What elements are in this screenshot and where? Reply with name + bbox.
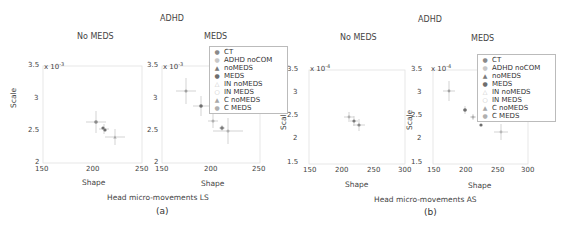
axes-a-left <box>43 66 142 163</box>
marker-icon: ▲ <box>481 72 489 80</box>
marker-icon: ● <box>213 72 221 80</box>
legend-item: ●ADHD noCOM <box>481 64 552 72</box>
marker-icon: ▲ <box>481 104 489 112</box>
marker-icon: ● <box>213 48 221 56</box>
xtick: 250 <box>252 165 265 173</box>
ytick: 2.5 <box>28 126 39 134</box>
xtick: 200 <box>204 165 217 173</box>
marker-icon: △ <box>481 88 489 96</box>
ylabel: Scale <box>9 88 18 108</box>
xtick: 250 <box>367 166 380 174</box>
ytick: 3 <box>417 88 421 96</box>
ytick: 3 <box>34 94 38 102</box>
legend-item: ●ADHD noCOM <box>213 56 284 64</box>
xtick: 300 <box>398 166 411 174</box>
marker-icon: ● <box>213 56 221 64</box>
legend-item: △IN noMEDS <box>481 88 552 96</box>
y-multiplier: x 10-4 <box>310 63 330 73</box>
legend-item: ●MEDS <box>213 72 284 80</box>
axes-b-left <box>309 70 405 164</box>
ytick: 3.5 <box>411 65 422 73</box>
points-a-left <box>94 120 117 138</box>
legend-a: ●CT ●ADHD noCOM ▲noMEDS ●MEDS △IN noMEDS… <box>209 46 288 114</box>
series-a-left <box>86 111 125 145</box>
xtick: 150 <box>427 166 440 174</box>
ytick: 3.5 <box>28 61 39 69</box>
legend-item: ○IN MEDS <box>213 88 284 96</box>
legend-item: ▲C noMEDS <box>481 104 552 112</box>
group-xlabel-a: Head micro-movements LS <box>107 193 209 202</box>
legend-item: △IN noMEDS <box>213 80 284 88</box>
legend-item: ○IN MEDS <box>481 96 552 104</box>
ytick: 2 <box>293 134 297 142</box>
marker-icon: ● <box>481 112 489 120</box>
marker-icon: ▲ <box>213 96 221 104</box>
xtick: 150 <box>35 165 48 173</box>
marker-icon: ○ <box>481 96 489 104</box>
xtick: 250 <box>491 166 504 174</box>
ylabel: Scale <box>405 110 414 130</box>
caption-a: (a) <box>156 206 169 216</box>
xtick: 150 <box>303 166 316 174</box>
legend-item: ▲C noMEDS <box>213 96 284 104</box>
group-xlabel-b: Head micro-movements AS <box>374 195 477 204</box>
ytick: 2.5 <box>147 126 158 134</box>
xtick: 150 <box>155 165 168 173</box>
marker-icon: △ <box>213 80 221 88</box>
xtick: 300 <box>521 166 534 174</box>
ytick: 3.5 <box>147 61 158 69</box>
xlabel: Shape <box>82 178 106 187</box>
y-multiplier: x 10-4 <box>431 63 451 73</box>
ytick: 3 <box>153 94 157 102</box>
ytick: 3 <box>293 88 297 96</box>
xtick: 200 <box>459 166 472 174</box>
ytick: 1.5 <box>287 158 298 166</box>
xlabel: Shape <box>468 181 492 190</box>
caption-b: (b) <box>424 207 437 217</box>
y-multiplier: x 10-3 <box>163 61 183 71</box>
ytick: 1.5 <box>411 158 422 166</box>
xtick: 200 <box>335 166 348 174</box>
legend-item: ●CT <box>481 56 552 64</box>
legend-item: ●C MEDS <box>481 112 552 120</box>
y-multiplier: x 10-3 <box>44 61 64 71</box>
legend-item: ▲noMEDS <box>481 72 552 80</box>
xtick: 200 <box>86 165 99 173</box>
xlabel: Shape <box>201 179 225 188</box>
ytick: 3.5 <box>287 65 298 73</box>
marker-icon: ● <box>481 80 489 88</box>
ytick: 2 <box>417 134 421 142</box>
legend-b: ●CT ●ADHD noCOM ▲noMEDS ●MEDS △IN noMEDS… <box>477 54 556 122</box>
xlabel: Shape <box>345 180 369 189</box>
marker-icon: ▲ <box>213 64 221 72</box>
xtick: 250 <box>135 165 148 173</box>
legend-item: ●CT <box>213 48 284 56</box>
legend-item: ▲noMEDS <box>213 64 284 72</box>
marker-icon: ● <box>481 64 489 72</box>
legend-item: ●MEDS <box>481 80 552 88</box>
marker-icon: ○ <box>213 88 221 96</box>
ytick: 2.5 <box>287 111 298 119</box>
legend-item: ●C MEDS <box>213 104 284 112</box>
marker-icon: ● <box>213 104 221 112</box>
marker-icon: ● <box>481 56 489 64</box>
